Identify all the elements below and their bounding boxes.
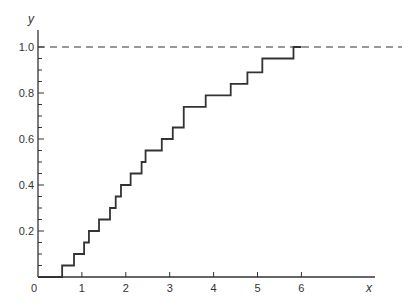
x-tick-label: 1 [79,282,85,294]
x-tick-label: 3 [167,282,173,294]
y-tick-label: 0.8 [19,87,34,99]
x-tick-label: 6 [298,282,304,294]
tick-labels: 01234560.20.40.60.81.0 [19,41,305,294]
x-tick-label: 2 [123,282,129,294]
step-function-chart: 01234560.20.40.60.81.0 y x [0,0,410,307]
y-tick-label: 0.2 [19,225,34,237]
x-axis-title: x [365,281,373,295]
tick-marks [38,47,301,277]
y-tick-label: 0.6 [19,133,34,145]
y-tick-label: 0.4 [19,179,34,191]
y-axis-title: y [27,12,35,26]
step-path [38,47,301,277]
x-tick-label: 0 [31,282,37,294]
x-tick-label: 5 [254,282,260,294]
step-series [38,47,301,277]
x-tick-label: 4 [211,282,217,294]
y-tick-label: 1.0 [19,41,34,53]
